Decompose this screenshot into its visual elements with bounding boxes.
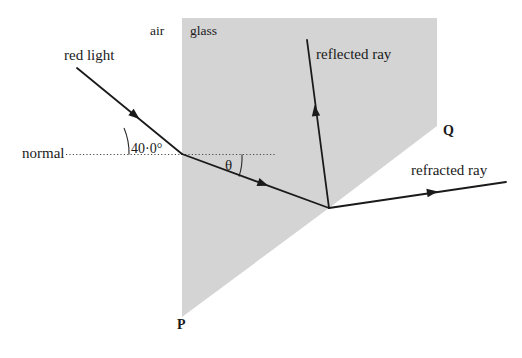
- label-glass: glass: [190, 24, 217, 38]
- label-refracted-ray: refracted ray: [411, 163, 487, 178]
- label-theta: θ: [225, 158, 232, 173]
- incident-ray-line: [77, 68, 182, 154]
- label-red-light: red light: [64, 48, 114, 63]
- label-normal: normal: [22, 146, 65, 161]
- label-point-q: Q: [443, 124, 454, 138]
- diagram-canvas: air glass red light normal 40·0° θ refle…: [0, 0, 522, 358]
- label-air: air: [150, 24, 164, 38]
- angle-of-incidence-arc: [124, 128, 129, 155]
- label-reflected-ray: reflected ray: [316, 47, 391, 62]
- label-angle-of-incidence: 40·0°: [131, 142, 162, 156]
- label-point-p: P: [177, 318, 186, 332]
